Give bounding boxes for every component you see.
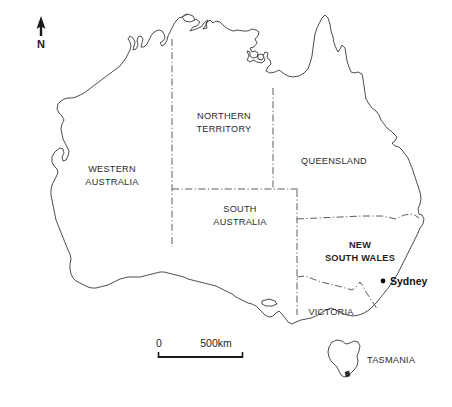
scale-bar: 0 500km <box>156 337 243 358</box>
state-label-qld-line1: QUEENSLAND <box>301 156 367 166</box>
north-arrow-label: N <box>37 38 45 50</box>
state-label-tas: TASMANIA <box>367 355 416 365</box>
state-label-vic-line1: VICTORIA <box>308 307 354 317</box>
state-label-nsw-line2: SOUTH WALES <box>325 253 395 263</box>
scale-bar-start-label: 0 <box>156 337 162 349</box>
state-label-wa-line2: AUSTRALIA <box>85 177 139 187</box>
tasmania-southeast-cape <box>345 371 350 377</box>
tasmania-outline <box>328 340 360 377</box>
state-label-tas-line1: TASMANIA <box>367 355 416 365</box>
state-label-vic: VICTORIA <box>308 307 354 317</box>
map-container: N 0 500km WESTERN AUSTRALIA NORTHERN TER… <box>0 0 452 407</box>
north-arrow: N <box>37 16 46 50</box>
north-arrow-icon <box>37 16 46 36</box>
city-label-sydney: Sydney <box>390 275 428 287</box>
state-label-qld: QUEENSLAND <box>301 156 367 166</box>
state-label-sa-line2: AUSTRALIA <box>213 217 267 227</box>
state-label-wa-line1: WESTERN <box>88 164 136 174</box>
state-label-nsw-line1: NEW <box>349 240 371 250</box>
groote-eylandt <box>258 54 264 60</box>
state-label-nt-line1: NORTHERN <box>197 111 251 121</box>
sydney-dot-icon <box>381 279 386 284</box>
australia-map-svg: N 0 500km WESTERN AUSTRALIA NORTHERN TER… <box>0 0 452 407</box>
state-label-sa-line1: SOUTH <box>223 204 256 214</box>
scale-bar-end-label: 500km <box>200 337 232 349</box>
state-label-nt-line2: TERRITORY <box>196 124 251 134</box>
